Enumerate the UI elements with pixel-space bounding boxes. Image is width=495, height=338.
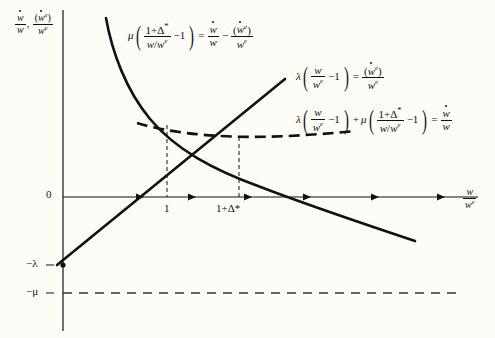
eq2-equals: = bbox=[353, 70, 359, 82]
lambda-increasing-line bbox=[57, 79, 285, 265]
x-tick-label-one-plus-delta: 1+Δ* bbox=[216, 203, 240, 214]
eq3-t1-minus-one: −1 bbox=[328, 113, 340, 125]
eq1-rhs2-num-sup: e bbox=[244, 23, 247, 30]
eq3-t2-den-w: w bbox=[380, 122, 387, 134]
eq1-den-w: w bbox=[147, 38, 154, 50]
eq2-num-w: w bbox=[314, 64, 321, 76]
eq1-den-we-sup: e bbox=[164, 37, 167, 44]
eq3-t2-minus-one: −1 bbox=[407, 113, 419, 125]
eq3-lambda: λ bbox=[296, 113, 301, 125]
y-tick-label-minus-lambda: −λ bbox=[26, 258, 38, 269]
origin-label: 0 bbox=[46, 189, 52, 200]
eq1-rhs1-den: w bbox=[210, 36, 217, 48]
eq3-t2-den-we-sup: e bbox=[397, 121, 400, 128]
figure-canvas: w w , (we) we w we 0 1 1+Δ* −λ −μ μ( 1+Δ… bbox=[0, 0, 495, 338]
eq3-t2-num-star: * bbox=[397, 105, 401, 115]
y-axis-label: w w , (we) we bbox=[14, 12, 54, 37]
eq2-minus-one: −1 bbox=[328, 70, 340, 82]
eq2-rhs-den-sup: e bbox=[375, 78, 378, 85]
eq2-den-sup: e bbox=[320, 77, 323, 84]
x-label-we: w bbox=[465, 199, 472, 210]
x-label-w: w bbox=[466, 186, 473, 197]
eq2-lambda: λ bbox=[296, 70, 301, 82]
y-label-we-dot-sup: e bbox=[45, 11, 48, 18]
eq2-rhs-num: w bbox=[368, 66, 375, 78]
eq3-mu: μ bbox=[361, 113, 367, 125]
eq1-rhs-minus: − bbox=[222, 29, 228, 41]
eq3-t1-num: w bbox=[314, 106, 321, 118]
y-label-w: w bbox=[17, 24, 24, 35]
minus-lambda-intercept-dot bbox=[60, 262, 65, 267]
eq3-rhs-num: w bbox=[443, 108, 450, 120]
eq2-rhs-den: w bbox=[368, 79, 375, 91]
eq1-rhs2-den-sup: e bbox=[244, 37, 247, 44]
y-label-we-dot: w bbox=[38, 13, 45, 24]
eq1-minus-one: −1 bbox=[174, 29, 186, 41]
plot-svg bbox=[0, 0, 495, 338]
eq1-mu: μ bbox=[128, 29, 134, 41]
y-label-w-dot: w bbox=[17, 13, 24, 24]
lambda-line-equation: λ( w we −1)= (we) we bbox=[296, 64, 385, 91]
eq1-rhs2-num: w bbox=[237, 24, 244, 36]
y-label-separator: , bbox=[27, 18, 30, 29]
eq3-equals: = bbox=[431, 113, 437, 125]
eq3-t1-den-sup: e bbox=[320, 120, 323, 127]
sum-curve-equation: λ( w we −1)+μ( 1+Δ* w/we −1)= w w bbox=[296, 106, 453, 134]
x-tick-label-one: 1 bbox=[164, 203, 170, 214]
x-label-we-sup: e bbox=[472, 198, 475, 205]
eq1-equals: = bbox=[198, 29, 204, 41]
eq3-rhs-den: w bbox=[443, 120, 450, 132]
eq1-num-star: * bbox=[164, 21, 168, 31]
eq3-t1-den: w bbox=[313, 121, 320, 133]
x-axis-label: w we bbox=[462, 187, 477, 210]
eq2-rhs-num-sup: e bbox=[375, 64, 378, 71]
y-tick-label-minus-mu: −μ bbox=[26, 286, 38, 297]
eq1-rhs1-num: w bbox=[210, 24, 217, 36]
eq3-plus: + bbox=[353, 113, 359, 125]
eq1-rhs2-den: w bbox=[237, 37, 244, 49]
y-label-we: w bbox=[38, 25, 45, 36]
mu-curve-equation: μ( 1+Δ* w/we −1)= w w − (we) we bbox=[128, 22, 254, 50]
y-label-we-sup: e bbox=[45, 24, 48, 31]
eq2-den-w: w bbox=[313, 78, 320, 90]
